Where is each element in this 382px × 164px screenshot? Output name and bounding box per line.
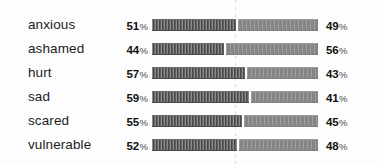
left-percent-symbol: % [140,21,148,32]
right-value: 56% [326,37,348,61]
right-percent-symbol: % [339,21,347,32]
left-value: 52% [112,133,148,157]
left-percent-symbol: % [140,117,148,128]
left-value: 55% [112,109,148,133]
right-value-number: 43 [326,68,339,80]
bar-segment-left [152,139,237,151]
category-label: vulnerable [28,133,91,157]
bar-track [152,43,318,55]
right-value-number: 56 [326,44,339,56]
left-value: 57% [112,61,148,85]
left-value: 51% [112,13,148,37]
chart-rows: anxious51%49%ashamed44%56%hurt57%43%sad5… [0,13,382,157]
left-value-number: 59 [126,92,139,104]
right-value: 43% [326,61,348,85]
bar-track [152,67,318,79]
bar-segment-right [238,19,318,31]
category-label: sad [28,85,50,109]
left-value-number: 52 [126,140,139,152]
bar-segment-right [239,139,318,151]
category-label: hurt [28,61,52,85]
chart-row: anxious51%49% [0,13,382,37]
right-percent-symbol: % [339,69,347,80]
bar-track [152,139,318,151]
right-value: 49% [326,13,348,37]
chart-row: ashamed44%56% [0,37,382,61]
left-value: 44% [112,37,148,61]
right-value-number: 49 [326,20,339,32]
stacked-bar-chart: anxious51%49%ashamed44%56%hurt57%43%sad5… [0,0,382,164]
bar-segment-left [152,115,242,127]
right-value: 48% [326,133,348,157]
category-label: scared [28,109,69,133]
bar-track [152,115,318,127]
right-value-number: 48 [326,140,339,152]
left-percent-symbol: % [140,141,148,152]
left-value-number: 55 [126,116,139,128]
left-value: 59% [112,85,148,109]
left-percent-symbol: % [140,93,148,104]
chart-row: sad59%41% [0,85,382,109]
chart-row: hurt57%43% [0,61,382,85]
right-percent-symbol: % [339,141,347,152]
category-label: anxious [28,13,75,37]
category-label: ashamed [28,37,84,61]
left-value-number: 51 [126,20,139,32]
bar-segment-right [244,115,318,127]
bar-segment-right [226,43,318,55]
right-value-number: 45 [326,116,339,128]
right-percent-symbol: % [339,93,347,104]
left-percent-symbol: % [140,69,148,80]
chart-row: scared55%45% [0,109,382,133]
bar-segment-left [152,91,249,103]
bar-segment-left [152,67,245,79]
right-value: 41% [326,85,348,109]
right-value: 45% [326,109,348,133]
left-value-number: 57 [126,68,139,80]
right-percent-symbol: % [339,45,347,56]
left-percent-symbol: % [140,45,148,56]
bar-segment-left [152,19,236,31]
bar-track [152,19,318,31]
chart-row: vulnerable52%48% [0,133,382,157]
right-percent-symbol: % [339,117,347,128]
bar-segment-right [251,91,318,103]
bar-segment-left [152,43,224,55]
bar-segment-right [247,67,318,79]
left-value-number: 44 [126,44,139,56]
bar-track [152,91,318,103]
right-value-number: 41 [326,92,339,104]
